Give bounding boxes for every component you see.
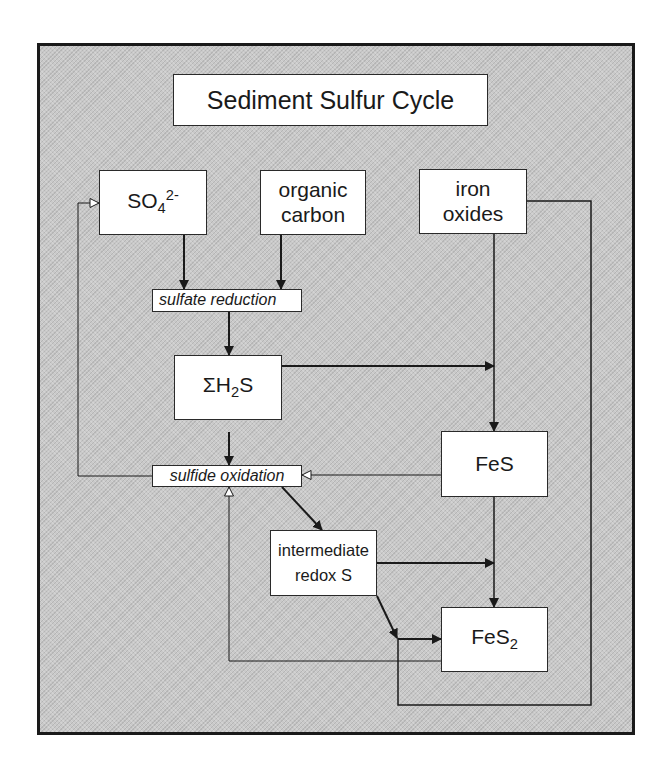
title-box: Sediment Sulfur Cycle <box>173 74 488 126</box>
organic-carbon-label: organic carbon <box>279 178 348 226</box>
node-organic-carbon: organic carbon <box>260 170 366 235</box>
fes2-label: FeS2 <box>471 625 518 653</box>
sulfate-reduction-label: sulfate reduction <box>159 291 276 309</box>
node-intermediate-redox-s: intermediate redox S <box>270 530 377 596</box>
intermediate-redox-s-label: intermediate redox S <box>278 541 369 585</box>
process-sulfide-oxidation: sulfide oxidation <box>152 465 302 487</box>
fes-label: FeS <box>475 452 514 476</box>
sulfate-label: SO42- <box>127 187 179 217</box>
sulfide-oxidation-label: sulfide oxidation <box>170 467 285 485</box>
node-sulfate: SO42- <box>99 170 207 235</box>
page-title: Sediment Sulfur Cycle <box>207 86 454 115</box>
node-iron-oxides: iron oxides <box>419 169 527 234</box>
node-sum-h2s: ΣH2S <box>174 355 282 420</box>
sum-h2s-label: ΣH2S <box>203 373 253 401</box>
iron-oxides-label: iron oxides <box>443 177 504 225</box>
node-fes: FeS <box>441 431 548 497</box>
process-sulfate-reduction: sulfate reduction <box>152 289 302 312</box>
node-fes2: FeS2 <box>441 607 548 672</box>
